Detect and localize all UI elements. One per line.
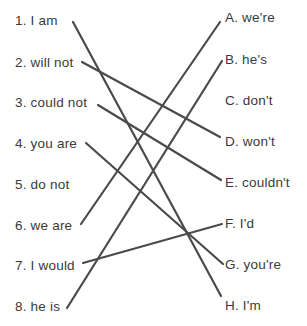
right-item-7: G. you're — [225, 257, 281, 273]
left-item-8: 8. he is — [15, 299, 60, 315]
left-item-1: 1. I am — [15, 13, 58, 29]
right-item-6: F. I'd — [225, 216, 254, 232]
left-item-6: 6. we are — [15, 218, 72, 234]
match-line-5 — [81, 22, 220, 224]
right-item-3: C. don't — [225, 93, 273, 109]
match-lines — [0, 0, 307, 326]
match-line-7 — [67, 61, 222, 308]
right-item-5: E. couldn't — [225, 175, 290, 191]
right-item-8: H. I'm — [225, 298, 261, 314]
left-item-5: 5. do not — [15, 177, 69, 193]
right-item-4: D. won't — [225, 134, 275, 150]
right-item-2: B. he's — [225, 52, 267, 68]
match-line-2 — [82, 62, 220, 137]
left-item-2: 2. will not — [15, 55, 73, 71]
match-line-1 — [73, 22, 221, 296]
left-item-7: 7. I would — [15, 258, 75, 274]
left-item-4: 4. you are — [15, 136, 77, 152]
right-item-1: A. we're — [225, 10, 275, 26]
left-item-3: 3. could not — [15, 95, 87, 111]
